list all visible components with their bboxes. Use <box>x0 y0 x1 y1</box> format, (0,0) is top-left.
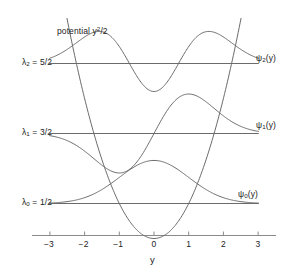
x-tick-label-1: −2 <box>79 240 89 249</box>
energy-label-lambda2: λ2 = 5/2 <box>22 58 52 67</box>
x-tick-label-2: −1 <box>113 240 123 249</box>
x-tick-label-5: 2 <box>221 240 226 249</box>
plot-canvas <box>0 0 307 276</box>
lambda2-value: = 5/2 <box>30 57 52 67</box>
potential-label-tail: /2 <box>100 26 107 36</box>
energy-label-lambda1: λ1 = 3/2 <box>22 128 52 137</box>
harmonic-oscillator-figure: potential y2/2 λ2 = 5/2 λ1 = 3/2 λ0 = 1/… <box>0 0 307 276</box>
wavefunction-label-psi1: ψ1(y) <box>256 121 276 130</box>
x-tick-label-0: −3 <box>44 240 54 249</box>
psi1-tail: (y) <box>266 120 276 130</box>
psi2-tail: (y) <box>266 53 276 63</box>
potential-label-text: potential y <box>57 26 97 36</box>
x-tick-label-3: 0 <box>152 240 157 249</box>
wavefunction-label-psi2: ψ2(y) <box>256 54 276 63</box>
energy-label-lambda0: λ0 = 1/2 <box>22 198 52 207</box>
psi0-tail: (y) <box>248 189 258 199</box>
x-axis-label: y <box>150 255 155 265</box>
wavefunction-label-psi0: ψ0(y) <box>238 190 258 199</box>
potential-label: potential y2/2 <box>57 26 108 35</box>
x-tick-label-6: 3 <box>256 240 261 249</box>
lambda0-value: = 1/2 <box>30 197 52 207</box>
x-axis-ticks <box>50 232 258 236</box>
lambda1-value: = 3/2 <box>30 127 52 137</box>
psi0-curve <box>49 160 259 203</box>
x-tick-label-4: 1 <box>186 240 191 249</box>
potential-curve <box>67 18 241 239</box>
